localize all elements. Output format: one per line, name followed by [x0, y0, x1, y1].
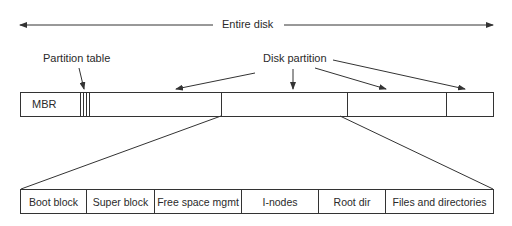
- free-space-mgmt-cell: Free space mgmt: [155, 190, 241, 214]
- mbr-label: MBR: [32, 98, 56, 110]
- expand-line-right: [340, 116, 493, 189]
- expand-line-left: [21, 116, 221, 189]
- disk-partition-arrow-3: [315, 68, 386, 89]
- disk-partition-label: Disk partition: [263, 52, 327, 64]
- i-nodes-cell: I-nodes: [242, 190, 318, 214]
- disk-partition-arrow-1: [176, 73, 255, 89]
- super-block-cell: Super block: [87, 190, 154, 214]
- root-dir-cell: Root dir: [319, 190, 385, 214]
- partition-table-arrow: [79, 68, 84, 89]
- files-and-directories-cell: Files and directories: [386, 190, 493, 214]
- entire-disk-label: Entire disk: [222, 18, 273, 30]
- disk-partition-arrow-4: [333, 60, 465, 89]
- boot-block-cell: Boot block: [21, 190, 86, 214]
- partition-table-label: Partition table: [43, 52, 110, 64]
- disk-bar: [21, 93, 494, 117]
